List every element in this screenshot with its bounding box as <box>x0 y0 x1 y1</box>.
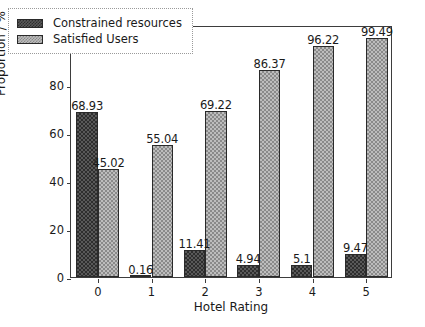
bar-value-label: 5.1 <box>293 252 311 266</box>
bar <box>76 112 97 277</box>
y-tick-label: 40 <box>49 175 64 189</box>
chart-figure: Proportion / % 020406080100 68.930.1611.… <box>0 0 425 327</box>
x-axis-title: Hotel Rating <box>70 300 392 314</box>
x-tick-label: 5 <box>362 285 369 299</box>
y-tick-mark <box>67 183 71 184</box>
x-tick-label: 2 <box>201 285 208 299</box>
bar-value-label: 55.04 <box>146 132 178 146</box>
legend-swatch-icon-constrained-resources <box>17 19 43 28</box>
y-tick-label: 60 <box>49 127 64 141</box>
x-tick-label: 4 <box>309 285 316 299</box>
x-tick-mark <box>205 279 206 283</box>
x-tick-mark <box>152 279 153 283</box>
bar <box>313 46 334 277</box>
bar-value-label: 0.16 <box>128 263 153 277</box>
x-tick-label: 0 <box>94 285 101 299</box>
y-tick-label: 80 <box>49 79 64 93</box>
y-tick-mark <box>67 135 71 136</box>
bar <box>205 111 226 277</box>
bar-value-label: 45.02 <box>93 156 125 170</box>
y-tick-mark <box>67 87 71 88</box>
bar-value-label: 99.49 <box>361 25 393 39</box>
x-tick-label: 3 <box>255 285 262 299</box>
chart-legend: Constrained resources Satisfied Users <box>8 8 193 54</box>
bar <box>291 265 312 277</box>
bar <box>152 145 173 277</box>
x-tick-mark <box>313 279 314 283</box>
y-tick-label: 20 <box>49 223 64 237</box>
bar <box>345 254 366 277</box>
y-axis-tick-marks <box>71 27 72 277</box>
bar <box>98 169 119 277</box>
legend-label-constrained-resources: Constrained resources <box>53 16 182 30</box>
bar-value-label: 9.47 <box>343 241 368 255</box>
legend-swatch-icon-satisfied-users <box>17 35 43 44</box>
bar-value-label: 11.41 <box>178 237 210 251</box>
bar <box>259 70 280 277</box>
bar <box>237 265 258 277</box>
y-tick-mark <box>67 231 71 232</box>
y-tick-label: 0 <box>57 271 64 285</box>
y-axis-title: Proportion / % <box>0 11 8 96</box>
bar-value-label: 68.93 <box>71 99 103 113</box>
x-tick-mark <box>259 279 260 283</box>
bar-value-label: 96.22 <box>307 33 339 47</box>
legend-item-satisfied-users: Satisfied Users <box>17 31 182 47</box>
x-tick-mark <box>366 279 367 283</box>
bar-value-label: 69.22 <box>200 98 232 112</box>
bar-value-label: 4.94 <box>236 252 261 266</box>
bar <box>184 250 205 277</box>
legend-label-satisfied-users: Satisfied Users <box>53 32 139 46</box>
bar <box>366 38 387 277</box>
y-axis-tick-labels: 020406080100 <box>38 26 64 278</box>
legend-item-constrained-resources: Constrained resources <box>17 15 182 31</box>
plot-area: 68.930.1611.414.945.19.4745.0255.0469.22… <box>70 26 392 278</box>
x-tick-mark <box>98 279 99 283</box>
x-tick-label: 1 <box>148 285 155 299</box>
bar-value-label: 86.37 <box>254 57 286 71</box>
